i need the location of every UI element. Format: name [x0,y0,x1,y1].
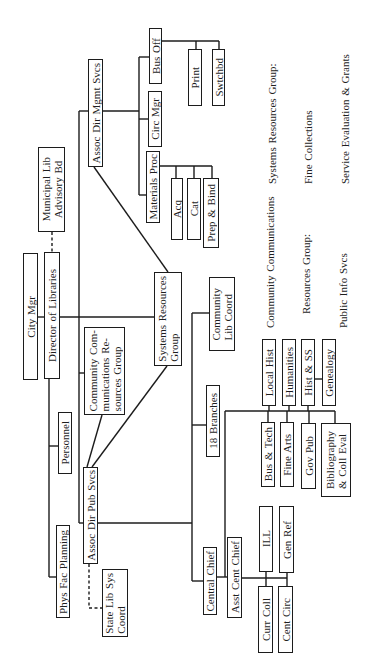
list-item: Fine Collections [302,30,314,184]
box-label: Print [189,67,201,88]
box-label: Cent Circ [280,598,292,641]
box-phys-fac-planning: Phys Fac Planning [56,525,70,618]
box-label: Assoc Dir Mgmt Svcs [90,63,102,163]
box-label: Materials Proc [147,154,159,219]
box-label: Community Com- munications Re- sources G… [87,330,123,411]
box-label: Municipal Lib Advisory Bd [40,157,64,221]
box-label: Phys Fac Planning [57,530,69,614]
box-label: Gov Pub [303,436,315,476]
box-gov-pub: Gov Pub [301,423,316,489]
org-chart: City Mgr Director of Libraries Municipal… [0,0,370,671]
box-humanities: Humanities [282,339,296,406]
box-acq: Acq [171,178,183,240]
box-label: Bus & Tech [262,427,274,481]
box-label: Hist & SS [302,349,314,396]
box-community-communications-resources-group: Community Com- munications Re- sources G… [84,327,125,415]
box-bus-off: Bus Off [149,28,162,84]
box-label: Systems Resources Group [156,276,180,362]
box-municipal-lib-advisory-bd: Municipal Lib Advisory Bd [38,147,65,232]
community-communications-list: Community Communications Resources Group… [239,186,326,328]
list-item: Service Evaluation & Grants [339,30,351,184]
box-fine-arts: Fine Arts [280,422,294,487]
box-state-lib-sys-coord: State Lib Sys Coord [102,569,128,637]
box-label: Personnel [59,421,71,464]
box-cat: Cat [187,178,201,240]
box-label: Fine Arts [281,434,293,476]
box-curr-coll: Curr Coll [258,586,273,653]
box-community-lib-coord: Community Lib Coord [209,277,235,351]
box-label: State Lib Sys Coord [103,573,127,634]
box-gen-ref: Gen Ref [279,506,294,573]
box-director-of-libraries: Director of Libraries [44,252,60,379]
box-label: Genealogy [323,349,335,397]
box-assoc-dir-pub-svcs: Assoc Dir Pub Svcs [83,467,98,564]
box-bus-tech: Bus & Tech [261,422,275,487]
box-label: 18 Branches [207,393,219,449]
list-heading: Community Communications [264,186,276,328]
box-label: Curr Coll [260,598,272,641]
box-asst-cent-chief: Asst Cent Chief [227,537,242,618]
box-swtchbd: Swtchbd [212,49,225,106]
box-label: ILL [260,530,272,547]
box-bibliography-coll-eval: Bibliography & Coll Eval [321,423,351,497]
box-label: Assoc Dir Pub Svcs [85,470,97,561]
box-label: Asst Cent Chief [229,541,241,613]
box-label: Cat [188,201,200,216]
box-label: Central Chief [204,551,216,612]
box-label: Swtchbd [213,58,225,97]
box-local-hist: Local Hist [262,339,276,406]
box-label: Community Lib Coord [210,288,234,341]
box-ill: ILL [259,506,273,572]
box-circ-mgr: Circ Mgr [148,91,162,147]
box-label: Bibliography & Coll Eval [324,431,348,489]
box-label: Humanities [283,347,295,398]
box-hist-ss: Hist & SS [301,339,315,406]
box-label: City Mgr [25,296,37,338]
box-label: Gen Ref [281,521,293,559]
box-label: Prep & Bind [205,184,217,242]
box-label: Director of Libraries [46,269,58,362]
list-item: Public Info Svcs [337,186,349,328]
box-print: Print [188,49,202,106]
box-systems-resources-group: Systems Resources Group [154,272,182,366]
box-materials-proc: Materials Proc [146,151,160,223]
box-central-chief: Central Chief [203,547,217,615]
box-label: Bus Off [150,38,162,74]
systems-resources-list: Systems Resources Group: Fine Collection… [241,30,352,184]
box-18-branches: 18 Branches [206,385,220,457]
list-heading-continued: Resources Group: [300,186,312,328]
box-cent-circ: Cent Circ [278,586,293,653]
box-personnel: Personnel [58,412,72,474]
box-genealogy: Genealogy [322,339,336,406]
box-label: Acq [171,200,183,218]
box-city-mgr: City Mgr [23,253,38,380]
box-label: Circ Mgr [149,98,161,140]
box-prep-bind: Prep & Bind [203,178,219,248]
box-label: Local Hist [263,349,275,396]
box-assoc-dir-mgmt-svcs: Assoc Dir Mgmt Svcs [88,59,103,167]
list-heading: Systems Resources Group: [266,30,278,184]
